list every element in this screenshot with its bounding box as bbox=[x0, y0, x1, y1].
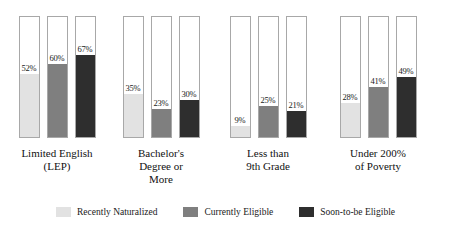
legend-swatch-icon bbox=[299, 207, 314, 217]
chart-category-label: Bachelor's Degree or More bbox=[109, 147, 213, 186]
chart-bar[interactable]: 21% bbox=[286, 16, 307, 138]
chart-group: 35%23%30%Bachelor's Degree or More bbox=[109, 16, 213, 196]
legend-swatch-icon bbox=[183, 207, 198, 217]
chart-bar-fill bbox=[180, 100, 199, 137]
chart-bar-value-label: 23% bbox=[152, 98, 171, 108]
chart-bar-cluster: 52%60%67% bbox=[5, 16, 109, 138]
chart-bar-value-label: 52% bbox=[20, 63, 39, 73]
chart-bar-value-label: 21% bbox=[287, 100, 306, 110]
chart-bar-cluster: 9%25%21% bbox=[216, 16, 320, 138]
chart-bar-value-label: 25% bbox=[259, 95, 278, 105]
chart-bar-fill bbox=[124, 94, 143, 137]
legend-label: Currently Eligible bbox=[204, 207, 273, 218]
chart-bar[interactable]: 41% bbox=[368, 16, 389, 138]
chart-bar[interactable]: 52% bbox=[19, 16, 40, 138]
chart-bar-fill bbox=[397, 77, 416, 137]
chart-bar[interactable]: 9% bbox=[230, 16, 251, 138]
chart-bar[interactable]: 23% bbox=[151, 16, 172, 138]
chart-bar-value-label: 9% bbox=[231, 115, 250, 125]
chart-bar-value-label: 60% bbox=[48, 53, 67, 63]
chart-category-label: Less than 9th Grade bbox=[216, 147, 320, 173]
chart-bar-value-label: 49% bbox=[397, 66, 416, 76]
chart-bar-fill bbox=[231, 126, 250, 137]
legend-swatch-icon bbox=[56, 207, 71, 217]
chart-bar-value-label: 67% bbox=[76, 44, 95, 54]
chart-bar[interactable]: 25% bbox=[258, 16, 279, 138]
chart-bar-value-label: 30% bbox=[180, 89, 199, 99]
chart-bar-value-label: 28% bbox=[341, 92, 360, 102]
legend-item[interactable]: Recently Naturalized bbox=[56, 207, 157, 218]
chart-group: 52%60%67%Limited English (LEP) bbox=[5, 16, 109, 196]
chart-bar[interactable]: 67% bbox=[75, 16, 96, 138]
chart-bar-fill bbox=[259, 106, 278, 137]
chart-bar-fill bbox=[369, 87, 388, 137]
chart-bar-fill bbox=[287, 111, 306, 137]
chart-bar[interactable]: 30% bbox=[179, 16, 200, 138]
chart-bar[interactable]: 28% bbox=[340, 16, 361, 138]
chart-bar-cluster: 35%23%30% bbox=[109, 16, 213, 138]
chart-bar-fill bbox=[76, 55, 95, 137]
chart-bar-value-label: 35% bbox=[124, 83, 143, 93]
legend-item[interactable]: Soon-to-be Eligible bbox=[299, 207, 395, 218]
chart-group: 28%41%49%Under 200% of Poverty bbox=[326, 16, 430, 196]
chart-bar-value-label: 41% bbox=[369, 76, 388, 86]
chart-bar[interactable]: 60% bbox=[47, 16, 68, 138]
chart-category-label: Limited English (LEP) bbox=[5, 147, 109, 173]
legend-label: Soon-to-be Eligible bbox=[320, 207, 395, 218]
chart-bar-fill bbox=[20, 74, 39, 137]
chart-group: 9%25%21%Less than 9th Grade bbox=[216, 16, 320, 196]
chart-bar-fill bbox=[341, 103, 360, 137]
legend-item[interactable]: Currently Eligible bbox=[183, 207, 273, 218]
chart-bar-fill bbox=[152, 109, 171, 137]
chart-plot-area: 52%60%67%Limited English (LEP)35%23%30%B… bbox=[0, 0, 451, 196]
chart-bar[interactable]: 35% bbox=[123, 16, 144, 138]
chart-bar[interactable]: 49% bbox=[396, 16, 417, 138]
legend-label: Recently Naturalized bbox=[77, 207, 157, 218]
chart-bar-cluster: 28%41%49% bbox=[326, 16, 430, 138]
chart-legend: Recently NaturalizedCurrently EligibleSo… bbox=[0, 202, 451, 222]
chart-bar-fill bbox=[48, 64, 67, 137]
chart-category-label: Under 200% of Poverty bbox=[326, 147, 430, 173]
